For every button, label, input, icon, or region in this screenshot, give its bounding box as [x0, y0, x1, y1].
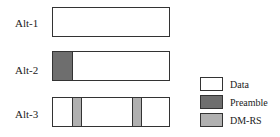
legend-label: Preamble [230, 97, 268, 109]
row-label: Alt-2 [15, 64, 38, 76]
data-frame [52, 7, 170, 37]
preamble-segment [53, 52, 73, 80]
data-frame [52, 97, 170, 127]
legend-swatch-data [200, 77, 223, 91]
data-frame [52, 51, 170, 81]
dmrs-segment [72, 98, 82, 126]
legend-swatch-preamble [200, 95, 223, 109]
legend-label: DM-RS [230, 115, 262, 127]
dmrs-segment [132, 98, 142, 126]
legend-label: Data [230, 79, 249, 91]
legend-swatch-dmrs [200, 113, 223, 127]
row-label: Alt-1 [15, 17, 38, 29]
row-label: Alt-3 [15, 108, 38, 120]
